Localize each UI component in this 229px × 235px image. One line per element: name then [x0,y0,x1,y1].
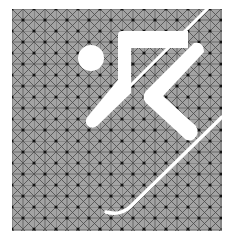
skier-back [118,31,131,93]
skier-pictogram [0,0,229,235]
grid-panel [12,9,222,231]
skier-head [78,45,104,71]
